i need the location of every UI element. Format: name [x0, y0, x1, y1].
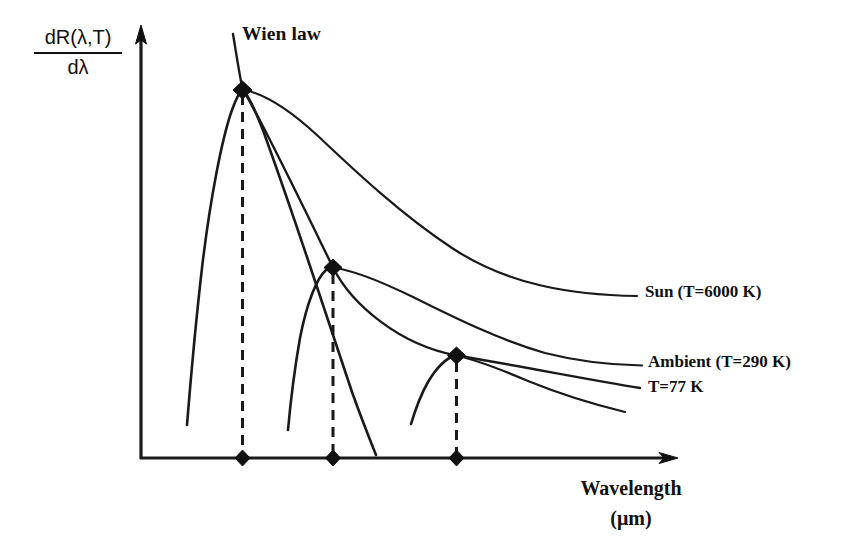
peak-marker-sun: [233, 81, 252, 99]
x-axis-marker-t77: [449, 450, 464, 466]
sun-curve-tail: [243, 90, 638, 297]
axes-group: [136, 25, 679, 464]
y-axis-numerator: dR(λ,T): [30, 26, 126, 51]
ambient-curve-rising: [288, 268, 333, 431]
wien-law-curve: [233, 34, 640, 388]
peak-marker-ambient: [324, 259, 342, 276]
x-axis-marker-sun: [235, 450, 250, 466]
t77-curve-rising: [411, 356, 457, 425]
chart-canvas: [0, 0, 842, 557]
blackbody-radiation-figure: dR(λ,T) dλ Wien law Sun (T=6000 K) Ambie…: [0, 0, 842, 557]
series-label-sun: Sun (T=6000 K): [645, 283, 761, 300]
x-axis-units: (μm): [610, 508, 651, 528]
t77-curve-tail: [457, 356, 626, 413]
y-axis-label: dR(λ,T) dλ: [30, 26, 126, 79]
x-axis-marker-ambient: [326, 450, 341, 466]
x-axis-title: Wavelength: [580, 478, 681, 498]
series-label-t77: T=77 K: [648, 378, 704, 395]
ambient-curve-tail: [333, 268, 642, 366]
fraction-bar: [34, 52, 122, 54]
y-axis-denominator: dλ: [30, 56, 126, 79]
wien-law-annotation: Wien law: [242, 24, 321, 44]
peak-marker-t77: [448, 347, 466, 364]
series-label-ambient: Ambient (T=290 K): [648, 353, 791, 370]
sun-curve-rising: [187, 90, 243, 426]
